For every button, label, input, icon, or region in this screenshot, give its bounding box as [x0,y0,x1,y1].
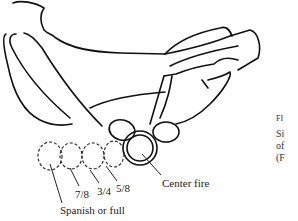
label-center-fire: Center fire [162,177,209,189]
caption-line-3: (F [276,152,285,164]
caption-line-1: Si [276,128,284,140]
leader-3-4 [90,170,99,183]
label-3-4: 3/4 [97,185,111,197]
label-spanish-full: Spanish or full [60,204,125,216]
label-7-8: 7/8 [75,188,89,200]
center-fire-ring [123,131,157,165]
rigging-dee-rear [107,117,137,143]
caption-line-2: of [276,140,284,152]
rigging-dee-front [153,122,179,142]
ring-spanish [38,142,62,170]
ring-3-4 [82,143,104,169]
leader-spanish [50,164,62,203]
ring-7-8 [60,143,82,169]
leader-7-8 [70,168,79,186]
caption-line-0: FI [276,113,283,125]
saddle-cantle [13,2,165,54]
ring-5-8 [104,141,124,167]
saddle-illustration [0,0,298,221]
label-5-8: 5/8 [116,182,130,194]
leader-5-8 [106,166,117,181]
saddle-fender [176,72,230,124]
